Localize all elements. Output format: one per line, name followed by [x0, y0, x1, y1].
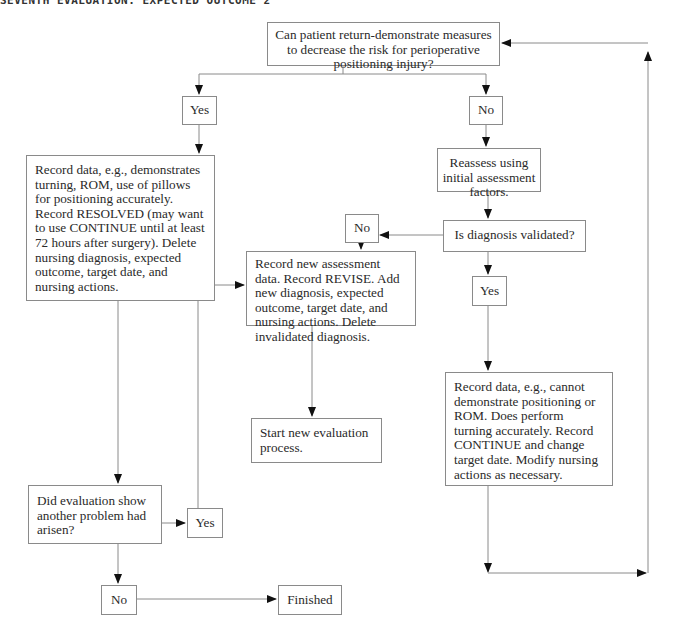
another-problem-text: Did evaluation show another problem had …	[37, 493, 146, 537]
yes-label: Yes	[190, 103, 209, 118]
record-revise-box: Record new assessment data. Record REVIS…	[246, 251, 416, 326]
yes-label: Yes	[480, 284, 499, 299]
main-question-box: Can patient return-demonstrate measures …	[267, 22, 500, 66]
record-resolved-text: Record data, e.g., demonstrates turning,…	[35, 162, 205, 294]
another-problem-box: Did evaluation show another problem had …	[28, 485, 162, 544]
yes-label: Yes	[195, 516, 214, 531]
record-continue-text: Record data, e.g., cannot demonstrate po…	[454, 379, 598, 482]
record-continue-box: Record data, e.g., cannot demonstrate po…	[445, 372, 613, 486]
no-box-2: No	[345, 214, 379, 243]
reassess-box: Reassess using initial assessment factor…	[437, 148, 541, 192]
main-question-text: Can patient return-demonstrate measures …	[275, 27, 491, 71]
no-label: No	[111, 593, 127, 608]
finished-label: Finished	[287, 593, 332, 608]
no-box-3: No	[101, 585, 137, 615]
yes-box-1: Yes	[182, 96, 217, 125]
finished-box: Finished	[278, 585, 342, 615]
yes-box-3: Yes	[187, 508, 223, 538]
diagnosis-validated-text: Is diagnosis validated?	[454, 227, 574, 242]
diagnosis-validated-box: Is diagnosis validated?	[443, 220, 586, 252]
yes-box-2: Yes	[472, 276, 507, 306]
record-resolved-box: Record data, e.g., demonstrates turning,…	[26, 155, 215, 301]
no-label: No	[354, 221, 370, 236]
no-label: No	[478, 103, 494, 118]
start-new-eval-text: Start new evaluation process.	[260, 425, 368, 455]
no-box-1: No	[469, 96, 503, 125]
start-new-eval-box: Start new evaluation process.	[251, 418, 382, 463]
